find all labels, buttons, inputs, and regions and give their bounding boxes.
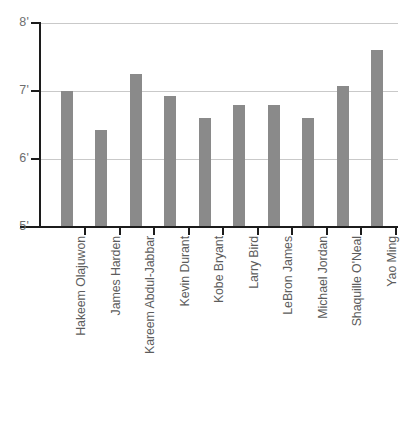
x-label-kevin-durant: Kevin Durant	[178, 236, 192, 422]
x-tick-3	[188, 228, 190, 235]
bar-kevin-durant	[164, 96, 176, 227]
x-ticks-layer	[40, 228, 398, 236]
x-tick-5	[257, 228, 259, 235]
y-tick-6ft	[31, 158, 40, 160]
x-tick-2	[153, 228, 155, 235]
bar-james-harden	[95, 130, 107, 227]
x-label-james-harden: James Harden	[109, 236, 123, 422]
bar-kobe-bryant	[199, 118, 211, 227]
x-labels-layer: Hakeem Olajuwon James Harden Kareem Abdu…	[40, 236, 398, 422]
bar-yao-ming	[371, 50, 383, 227]
x-tick-4	[222, 228, 224, 235]
x-tick-8	[360, 228, 362, 235]
x-label-kareem-abdul-jabbar: Kareem Abdul-Jabbar	[143, 236, 157, 422]
y-axis-line	[39, 22, 41, 228]
y-tick-8ft	[31, 22, 40, 24]
y-tick-label-7ft: 7'	[3, 84, 29, 97]
bar-chart: 8' 7' 6' 5' Hakeem Olajuwon James Harden…	[0, 0, 400, 422]
x-tick-7	[326, 228, 328, 235]
bar-larry-bird	[233, 105, 245, 227]
y-tick-label-5ft: 5'	[3, 220, 29, 233]
x-tick-9	[395, 228, 397, 235]
x-label-lebron-james: LeBron James	[281, 236, 295, 422]
bar-kareem-abdul-jabbar	[130, 74, 142, 227]
x-label-kobe-bryant: Kobe Bryant	[212, 236, 226, 422]
y-tick-7ft	[31, 90, 40, 92]
bar-lebron-james	[268, 105, 280, 227]
x-tick-6	[291, 228, 293, 235]
bar-hakeem-olajuwon	[61, 91, 73, 227]
bar-michael-jordan	[302, 118, 314, 227]
x-label-shaquille-oneal: Shaquille O'Neal	[350, 236, 364, 422]
y-tick-5ft	[31, 226, 40, 228]
bars-layer	[40, 23, 398, 227]
x-label-michael-jordan: Michael Jordan	[316, 236, 330, 422]
x-tick-0	[84, 228, 86, 235]
y-tick-label-8ft: 8'	[3, 16, 29, 29]
x-label-larry-bird: Larry Bird	[247, 236, 261, 422]
x-tick-1	[119, 228, 121, 235]
bar-shaquille-oneal	[337, 86, 349, 227]
x-label-yao-ming: Yao Ming	[385, 236, 399, 422]
x-label-hakeem-olajuwon: Hakeem Olajuwon	[74, 236, 88, 422]
y-tick-label-6ft: 6'	[3, 152, 29, 165]
